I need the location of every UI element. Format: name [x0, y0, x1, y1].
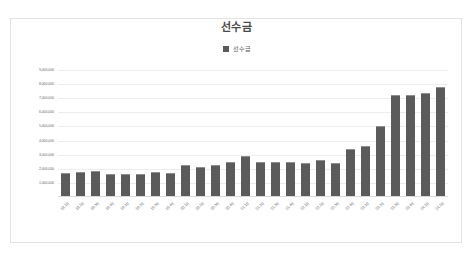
bar-slot	[388, 70, 403, 197]
x-label-slot: 20.1q	[178, 199, 193, 243]
x-axis-tick-labels: 18.1q18.2q18.3q18.4q19.1q19.2q19.3q19.4q…	[58, 199, 448, 243]
x-label-slot: 24.2q	[433, 199, 448, 243]
x-axis-tick-label: 22.1q	[299, 201, 309, 211]
x-label-slot: 19.2q	[133, 199, 148, 243]
x-label-slot: 24.1q	[418, 199, 433, 243]
bar[interactable]	[376, 126, 384, 197]
plot-area: 9,000,0008,000,0007,000,0006,000,0005,00…	[58, 70, 448, 197]
x-label-slot: 21.4q	[283, 199, 298, 243]
bar[interactable]	[331, 163, 339, 197]
bar-slot	[178, 70, 193, 197]
x-axis-tick-label: 23.2q	[374, 201, 384, 211]
bar[interactable]	[166, 173, 174, 197]
bar-slot	[148, 70, 163, 197]
y-axis-tick-label: 6,000,000	[39, 110, 54, 114]
bar[interactable]	[271, 162, 279, 197]
bar-slot	[418, 70, 433, 197]
bar[interactable]	[421, 93, 429, 197]
bar[interactable]	[106, 174, 114, 197]
chart-screenshot: 선수금 선수금 9,000,0008,000,0007,000,0006,000…	[0, 0, 473, 257]
bar[interactable]	[391, 95, 399, 197]
bar-slot	[163, 70, 178, 197]
bar[interactable]	[406, 95, 414, 197]
legend-item-label: 선수금	[233, 44, 251, 53]
bar[interactable]	[346, 149, 354, 197]
x-label-slot: 21.1q	[238, 199, 253, 243]
bar[interactable]	[136, 174, 144, 197]
y-axis-tick-label: 7,000,000	[39, 96, 54, 100]
bar-slot	[208, 70, 223, 197]
y-axis-tick-label: 8,000,000	[39, 82, 54, 86]
bar[interactable]	[181, 165, 189, 197]
x-label-slot: 20.4q	[223, 199, 238, 243]
bar-slot	[403, 70, 418, 197]
legend-color-swatch	[223, 46, 229, 52]
x-label-slot: 19.4q	[163, 199, 178, 243]
bar-slot	[433, 70, 448, 197]
x-label-slot: 22.4q	[343, 199, 358, 243]
bar[interactable]	[61, 173, 69, 197]
bar[interactable]	[256, 162, 264, 197]
bar[interactable]	[361, 146, 369, 197]
bar[interactable]	[196, 167, 204, 197]
x-label-slot: 22.3q	[328, 199, 343, 243]
x-axis-tick-label: 18.2q	[74, 201, 84, 211]
bar[interactable]	[226, 162, 234, 197]
bar-slot	[238, 70, 253, 197]
x-axis-tick-label: 19.2q	[134, 201, 144, 211]
x-label-slot: 21.2q	[253, 199, 268, 243]
bar-slot	[328, 70, 343, 197]
bar-slot	[298, 70, 313, 197]
bar[interactable]	[76, 172, 84, 197]
x-label-slot: 23.3q	[388, 199, 403, 243]
bar-slot	[358, 70, 373, 197]
x-label-slot: 23.1q	[358, 199, 373, 243]
bar-slot	[88, 70, 103, 197]
bar[interactable]	[301, 163, 309, 197]
x-label-slot: 20.2q	[193, 199, 208, 243]
bar-slot	[193, 70, 208, 197]
bar-slot	[58, 70, 73, 197]
x-label-slot: 23.4q	[403, 199, 418, 243]
x-axis-tick-label: 18.4q	[104, 201, 114, 211]
bar[interactable]	[121, 174, 129, 197]
x-label-slot: 18.3q	[88, 199, 103, 243]
x-axis-tick-label: 24.2q	[434, 201, 444, 211]
bar-slot	[268, 70, 283, 197]
x-axis-tick-label: 23.3q	[389, 201, 399, 211]
bar[interactable]	[316, 160, 324, 197]
x-axis-tick-label: 18.3q	[89, 201, 99, 211]
x-label-slot: 21.3q	[268, 199, 283, 243]
x-axis-tick-label: 21.4q	[284, 201, 294, 211]
bar-slot	[73, 70, 88, 197]
x-axis-tick-label: 20.3q	[209, 201, 219, 211]
x-label-slot: 18.4q	[103, 199, 118, 243]
bar[interactable]	[436, 87, 444, 197]
x-label-slot: 22.2q	[313, 199, 328, 243]
bar[interactable]	[241, 156, 249, 197]
chart-legend: 선수금	[0, 44, 473, 53]
x-axis-tick-label: 19.3q	[149, 201, 159, 211]
bar[interactable]	[151, 172, 159, 197]
x-label-slot: 18.1q	[58, 199, 73, 243]
x-axis-line	[58, 196, 448, 197]
x-axis-tick-label: 21.3q	[269, 201, 279, 211]
x-axis-tick-label: 20.1q	[179, 201, 189, 211]
x-axis-tick-label: 18.1q	[59, 201, 69, 211]
x-label-slot: 19.1q	[118, 199, 133, 243]
chart-title: 선수금	[0, 18, 473, 34]
x-axis-tick-label: 22.3q	[329, 201, 339, 211]
bar-slot	[313, 70, 328, 197]
y-axis-tick-label: 1,000,000	[39, 181, 54, 185]
x-axis-tick-label: 23.1q	[359, 201, 369, 211]
bar-slot	[133, 70, 148, 197]
x-axis-tick-label: 20.4q	[224, 201, 234, 211]
bar[interactable]	[211, 165, 219, 197]
bar[interactable]	[91, 171, 99, 197]
y-axis-tick-label: 4,000,000	[39, 139, 54, 143]
x-label-slot: 22.1q	[298, 199, 313, 243]
bar[interactable]	[286, 162, 294, 197]
x-label-slot: 19.3q	[148, 199, 163, 243]
x-label-slot: 23.2q	[373, 199, 388, 243]
y-axis-tick-label: 2,000,000	[39, 167, 54, 171]
